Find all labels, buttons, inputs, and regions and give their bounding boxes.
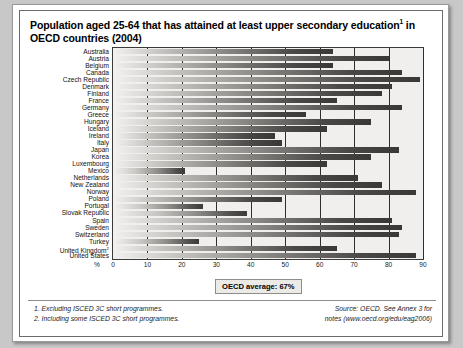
bar-row <box>113 197 423 202</box>
y-label-ireland: Ireland <box>89 132 109 139</box>
bar-row <box>113 84 423 89</box>
y-label-mexico: Mexico <box>88 167 109 174</box>
bar-row <box>113 232 423 237</box>
bar-iceland <box>113 126 327 131</box>
bar-row <box>113 119 423 124</box>
bar-italy <box>113 140 282 145</box>
y-label-slovak-republic: Slovak Republic <box>62 209 109 216</box>
oecd-average-badge: OECD average: 67% <box>215 279 302 294</box>
title-line1-tail: in <box>403 19 415 31</box>
bar-poland <box>113 197 282 202</box>
y-label-czech-republic: Czech Republic <box>63 76 109 83</box>
document-card: Population aged 25-64 that has attained … <box>12 4 449 342</box>
bar-netherlands <box>113 175 358 180</box>
bar-ireland <box>113 133 275 138</box>
x-tick-40: 40 <box>247 261 254 268</box>
y-label-greece: Greece <box>87 111 109 118</box>
bar-belgium <box>113 63 333 68</box>
y-label-spain: Spain <box>92 217 109 224</box>
y-label-italy: Italy <box>97 139 109 146</box>
x-axis-ticks: 0102030405060708090 <box>112 261 424 273</box>
bar-row <box>113 70 423 75</box>
x-tick-20: 20 <box>178 261 185 268</box>
bar-finland <box>113 91 382 96</box>
footer-divider <box>28 300 436 301</box>
y-label-finland: Finland <box>87 90 109 97</box>
y-label-norway: Norway <box>87 188 109 195</box>
gridline-90 <box>423 48 424 259</box>
y-label-switzerland: Switzerland <box>75 231 109 238</box>
y-label-luxembourg: Luxembourg <box>72 160 109 167</box>
y-label-united-states: United States <box>69 252 109 259</box>
bar-japan <box>113 147 399 152</box>
y-label-austria: Austria <box>88 55 109 62</box>
bar-row <box>113 91 423 96</box>
bar-row <box>113 211 423 216</box>
bar-row <box>113 239 423 244</box>
y-label-netherlands: Netherlands <box>73 174 109 181</box>
bar-row <box>113 105 423 110</box>
bar-row <box>113 154 423 159</box>
y-label-belgium: Belgium <box>85 62 109 69</box>
bar-canada <box>113 70 402 75</box>
bar-australia <box>113 49 333 54</box>
y-label-footnote-marker: 2 <box>107 246 109 251</box>
source-line-2: notes (www.oecd.org/edu/eag2006) <box>242 314 432 324</box>
y-label-australia: Australia <box>83 48 109 55</box>
bar-row <box>113 63 423 68</box>
bar-portugal <box>113 204 203 209</box>
plot-canvas <box>112 47 424 260</box>
x-tick-30: 30 <box>213 261 220 268</box>
bar-greece <box>113 112 306 117</box>
y-label-turkey: Turkey <box>89 238 109 245</box>
bar-row <box>113 147 423 152</box>
bar-row <box>113 56 423 61</box>
y-label-portugal: Portugal <box>84 202 109 209</box>
bar-korea <box>113 154 371 159</box>
bar-turkey <box>113 239 199 244</box>
x-axis-unit: % <box>94 261 100 268</box>
bar-row <box>113 182 423 187</box>
bar-united-states <box>113 253 416 258</box>
bar-row <box>113 168 423 173</box>
y-label-hungary: Hungary <box>84 118 109 125</box>
bar-luxembourg <box>113 161 327 166</box>
y-label-poland: Poland <box>88 195 109 202</box>
bar-row <box>113 218 423 223</box>
bar-switzerland <box>113 232 399 237</box>
bar-norway <box>113 190 416 195</box>
title-line2: OECD countries (2004) <box>30 32 142 44</box>
bar-slovak-republic <box>113 211 247 216</box>
bar-row <box>113 225 423 230</box>
x-tick-90: 90 <box>419 261 426 268</box>
y-label-germany: Germany <box>82 104 109 111</box>
bar-spain <box>113 218 392 223</box>
bar-czech-republic <box>113 77 420 82</box>
screenshot-page: Population aged 25-64 that has attained … <box>0 0 463 348</box>
bar-row <box>113 161 423 166</box>
source-line-1: Source: OECD. See Annex 3 for <box>242 304 432 314</box>
y-label-canada: Canada <box>86 69 109 76</box>
title-line1: Population aged 25-64 that has attained … <box>30 19 400 31</box>
x-tick-0: 0 <box>111 261 115 268</box>
bar-denmark <box>113 84 392 89</box>
y-axis-labels: AustraliaAustriaBelgiumCanadaCzech Repub… <box>24 47 109 260</box>
bar-mexico <box>113 168 185 173</box>
bar-row <box>113 112 423 117</box>
x-tick-10: 10 <box>144 261 151 268</box>
y-label-iceland: Iceland <box>88 125 109 132</box>
y-label-japan: Japan <box>91 146 109 153</box>
x-tick-70: 70 <box>350 261 357 268</box>
page-title: Population aged 25-64 that has attained … <box>30 15 430 45</box>
y-label-new-zealand: New Zealand <box>70 181 109 188</box>
footnote-1: 1. Excluding ISCED 3C short programmes. <box>34 304 244 314</box>
y-label-korea: Korea <box>91 153 109 160</box>
y-label-denmark: Denmark <box>82 83 109 90</box>
bar-austria <box>113 56 389 61</box>
bar-france <box>113 98 337 103</box>
bar-row <box>113 175 423 180</box>
bar-sweden <box>113 225 402 230</box>
bar-row <box>113 98 423 103</box>
bar-germany <box>113 105 402 110</box>
bar-hungary <box>113 119 371 124</box>
